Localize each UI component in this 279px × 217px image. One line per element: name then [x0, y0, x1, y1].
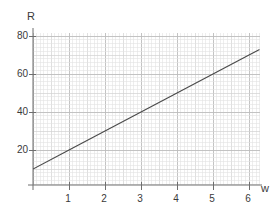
y-axis-label: R	[27, 11, 35, 22]
y-tick-label-40: 40	[8, 107, 28, 117]
x-axis-label: w	[261, 183, 269, 194]
x-tick-label-1: 1	[61, 194, 75, 204]
x-tick-label-6: 6	[241, 194, 255, 204]
x-tick-label-5: 5	[205, 194, 219, 204]
y-tick-label-20: 20	[8, 145, 28, 155]
chart-canvas	[0, 0, 279, 217]
x-tick-label-2: 2	[97, 194, 111, 204]
x-tick-label-3: 3	[133, 194, 147, 204]
y-tick-label-60: 60	[8, 69, 28, 79]
line-chart: R w 80 60 40 20 1 2 3 4 5 6	[0, 0, 279, 217]
x-tick-label-4: 4	[169, 194, 183, 204]
y-tick-label-80: 80	[8, 31, 28, 41]
